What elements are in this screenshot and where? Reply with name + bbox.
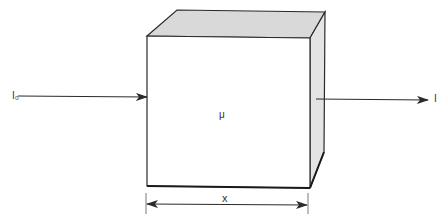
attenuation-coefficient-label: μ — [219, 109, 225, 120]
thickness-label: x — [222, 192, 228, 204]
cube-side-face — [310, 12, 325, 188]
incident-beam-arrow — [18, 96, 147, 97]
attenuation-diagram: I₀ I μ x — [0, 0, 448, 222]
thickness-dimension-arrow — [147, 204, 307, 205]
transmitted-intensity-label: I — [434, 93, 437, 104]
transmitted-beam-arrow — [316, 99, 428, 100]
cube-top-face — [147, 10, 325, 38]
incident-intensity-label: I₀ — [12, 90, 19, 101]
cube-front-face — [147, 36, 310, 188]
